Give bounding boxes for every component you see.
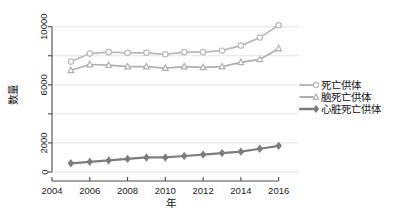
circle-open-icon (106, 49, 111, 54)
x-tick-label: 2012 (193, 185, 214, 196)
x-axis-title: 年 (166, 197, 176, 209)
circle-open-icon (219, 48, 224, 53)
legend-label: 脑死亡供体 (321, 91, 372, 103)
circle-open-icon (200, 49, 205, 54)
series-3 (68, 143, 281, 167)
data-series-layer (68, 23, 282, 167)
x-tick-label: 2010 (155, 185, 176, 196)
diamond-filled-icon (220, 150, 225, 156)
circle-open-icon (313, 82, 318, 87)
triangle-open-icon (87, 61, 93, 67)
x-tick-label: 2006 (79, 185, 100, 196)
line-chart: 02000600010000 2004200620082010201220142… (0, 0, 403, 224)
triangle-open-icon (144, 63, 150, 69)
y-tick-label: 10000 (39, 14, 50, 40)
legend-label: 心脏死亡供体 (321, 103, 382, 115)
diamond-filled-icon (257, 146, 262, 152)
triangle-open-icon (68, 67, 74, 73)
x-tick-labels: 2004200620082010201220142016 (41, 185, 289, 196)
circle-open-icon (125, 50, 130, 55)
circle-open-icon (276, 23, 281, 28)
circle-open-icon (163, 52, 168, 57)
diamond-filled-icon (182, 153, 187, 159)
series-2 (68, 45, 282, 72)
legend-label: 死亡供体 (321, 79, 362, 91)
chart-container: 02000600010000 2004200620082010201220142… (0, 0, 403, 224)
diamond-filled-icon (238, 148, 243, 154)
diamond-filled-icon (106, 157, 111, 163)
diamond-filled-icon (125, 156, 130, 162)
triangle-open-icon (181, 63, 187, 69)
triangle-open-icon (200, 64, 206, 70)
diamond-filled-icon (314, 106, 319, 112)
x-tick-label: 2014 (230, 185, 251, 196)
triangle-open-icon (257, 56, 263, 62)
series-line (71, 49, 279, 71)
series-1 (68, 23, 281, 65)
chart-legend: 死亡供体脑死亡供体心脏死亡供体 (300, 79, 382, 115)
y-axis-title: 数量 (7, 84, 19, 105)
circle-open-icon (257, 35, 262, 40)
diamond-filled-icon (163, 154, 168, 160)
triangle-open-icon (219, 63, 225, 69)
legend-item-2[interactable]: 脑死亡供体 (300, 91, 372, 103)
series-line (71, 146, 279, 163)
x-tick-label: 2004 (41, 185, 62, 196)
circle-open-icon (87, 51, 92, 56)
triangle-open-icon (276, 45, 282, 51)
circle-open-icon (68, 59, 73, 64)
x-tick-label: 2016 (268, 185, 289, 196)
y-tick-labels: 02000600010000 (39, 14, 50, 175)
x-tick-label: 2008 (117, 185, 138, 196)
triangle-open-icon (313, 94, 318, 99)
y-tick-label: 2000 (39, 132, 50, 153)
diamond-filled-icon (144, 154, 149, 160)
triangle-open-icon (162, 65, 168, 71)
diamond-filled-icon (68, 160, 73, 166)
circle-open-icon (182, 49, 187, 54)
diamond-filled-icon (201, 151, 206, 157)
y-tick-label: 6000 (39, 74, 50, 95)
circle-open-icon (144, 50, 149, 55)
triangle-open-icon (106, 62, 112, 68)
legend-item-3[interactable]: 心脏死亡供体 (300, 103, 382, 115)
y-tick-label: 0 (39, 169, 50, 174)
legend-item-1[interactable]: 死亡供体 (300, 79, 362, 91)
diamond-filled-icon (87, 159, 92, 165)
triangle-open-icon (238, 59, 244, 65)
circle-open-icon (238, 43, 243, 48)
diamond-filled-icon (276, 143, 281, 149)
triangle-open-icon (125, 63, 131, 69)
